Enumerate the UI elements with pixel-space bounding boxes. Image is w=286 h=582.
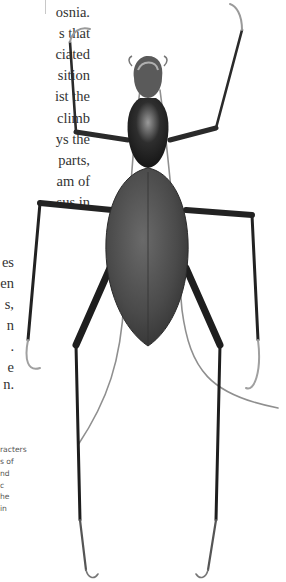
hind-leg-left (76, 268, 110, 577)
hind-leg-right (186, 268, 220, 577)
beetle-specimen-image (0, 0, 286, 582)
beetle-head (129, 56, 167, 98)
book-page: osnia. s that ciated sition ist the clim… (0, 0, 286, 582)
beetle-elytra (106, 168, 188, 346)
front-leg-left (70, 28, 128, 140)
front-leg-right (170, 4, 242, 140)
